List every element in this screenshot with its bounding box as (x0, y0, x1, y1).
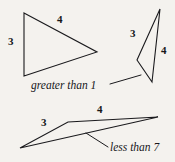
label-triangle3-side-3: 3 (41, 117, 47, 128)
label-triangle2-side-4: 4 (161, 45, 167, 56)
triangle-thin-right (137, 9, 160, 82)
leader-less-than-7-line (86, 133, 108, 147)
label-triangle3-side-4: 4 (97, 104, 103, 115)
label-triangle1-side-3: 3 (8, 36, 14, 47)
annotation-less-than-7: less than 7 (110, 142, 159, 154)
label-triangle2-side-3: 3 (130, 28, 136, 39)
annotation-greater-than-1: greater than 1 (31, 80, 96, 92)
leader-greater-than-1-line (110, 75, 141, 84)
figure-canvas: 3 4 3 4 3 4 greater than 1 less than 7 (0, 0, 175, 162)
label-triangle1-side-4: 4 (57, 14, 63, 25)
